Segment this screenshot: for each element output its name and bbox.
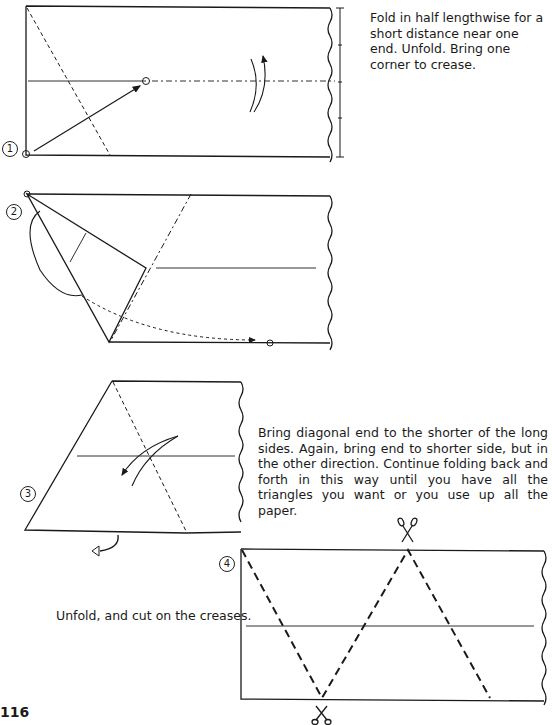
step-4-diagram: [241, 549, 546, 705]
step-4-instruction: Unfold, and cut on the creases.: [56, 608, 251, 623]
step-3-instruction: Bring diagonal end to the shorter of the…: [258, 425, 548, 518]
scissors-icon: [312, 706, 331, 725]
fold-diagonal-dashed: [113, 382, 186, 531]
paper-bottom: [109, 342, 330, 343]
wavy-edge: [542, 551, 546, 705]
step-number: 4: [219, 556, 235, 572]
scissors-icon: [397, 517, 418, 542]
paper-outline: [26, 6, 330, 157]
fold-arrow: [132, 436, 178, 486]
dotted-path: [82, 296, 255, 340]
move-arrow: [34, 86, 140, 151]
paper-top: [27, 194, 330, 196]
page-number: 116: [0, 704, 29, 720]
step-number: 2: [6, 204, 22, 220]
wavy-edge: [239, 382, 243, 522]
back-fold-arrow: [100, 535, 118, 551]
step-3-diagram: [25, 381, 243, 556]
step-1-instruction: Fold in half lengthwise for a short dist…: [370, 10, 550, 72]
fold-diagonal-dashed: [27, 8, 110, 155]
cut-lines-dashed: [242, 550, 490, 698]
wavy-edge: [328, 196, 332, 350]
fold-arrow: [250, 59, 256, 112]
wavy-edge: [328, 8, 332, 162]
fold-arrow: [254, 56, 265, 112]
step-1-diagram: [23, 6, 345, 162]
step-number: 3: [20, 486, 36, 502]
step-number: 1: [2, 141, 18, 157]
step-2-diagram: [24, 191, 332, 350]
paper-outline: [241, 549, 544, 701]
folded-flap: [27, 194, 146, 342]
paper-outline: [25, 381, 241, 533]
